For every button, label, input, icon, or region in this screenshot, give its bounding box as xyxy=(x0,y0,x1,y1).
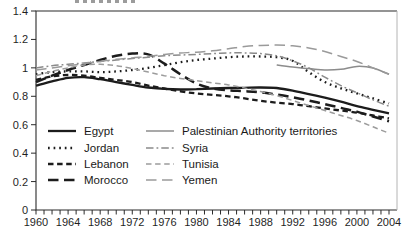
x-axis-tick-label: 1960 xyxy=(24,216,48,228)
y-axis-tick-label: 0.6 xyxy=(13,119,28,131)
series-line-syria xyxy=(36,53,389,106)
x-axis-tick-label: 1972 xyxy=(120,216,144,228)
x-axis-tick-label: 2000 xyxy=(345,216,369,228)
y-axis-tick-label: 0.8 xyxy=(13,90,28,102)
series-line-lebanon xyxy=(36,75,389,118)
x-axis-tick-label: 2004 xyxy=(377,216,401,228)
y-axis-tick-label: 1.2 xyxy=(13,33,28,45)
x-axis-tick-label: 1992 xyxy=(280,216,304,228)
x-axis-tick-label: 1968 xyxy=(88,216,112,228)
x-axis-tick-label: 1964 xyxy=(56,216,80,228)
chart-figure: 1.41.210.80.60.40.2019601964196819721976… xyxy=(0,0,404,232)
x-axis-tick-label: 1980 xyxy=(184,216,208,228)
y-axis-tick-label: 1 xyxy=(22,62,28,74)
x-axis-tick-label: 1976 xyxy=(152,216,176,228)
series-line-tunisia xyxy=(36,64,389,133)
y-axis-tick-label: 0.4 xyxy=(13,147,28,159)
x-axis-tick-label: 1984 xyxy=(216,216,240,228)
series-line-palestinian-authority-territories xyxy=(277,65,389,74)
x-axis-tick-label: 1988 xyxy=(248,216,272,228)
y-axis-tick-label: 1.4 xyxy=(13,5,28,17)
line-chart-plot: 1.41.210.80.60.40.2019601964196819721976… xyxy=(0,0,404,232)
x-axis-tick-label: 1996 xyxy=(313,216,337,228)
y-axis-tick-label: 0.2 xyxy=(13,176,28,188)
y-axis-tick-label: 0 xyxy=(22,204,28,216)
